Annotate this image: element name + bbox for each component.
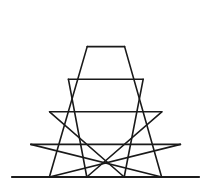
diagram-canvas	[0, 0, 223, 194]
triangle-grid-diagram	[0, 0, 223, 194]
right-parallel-grid-line	[68, 79, 86, 177]
left-parallel-grid-line	[124, 79, 143, 177]
